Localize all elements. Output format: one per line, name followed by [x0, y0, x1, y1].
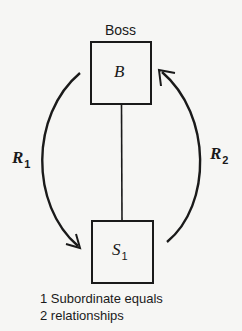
diagram-canvas: [0, 0, 242, 331]
relation-label-r2: R2: [210, 144, 228, 164]
boss-box-label: B: [114, 62, 124, 82]
caption-line-2: 2 relationships: [40, 307, 163, 324]
relation-subscript: 1: [24, 158, 30, 170]
caption: 1 Subordinate equals 2 relationships: [40, 290, 163, 324]
relation-arc-r2: [162, 72, 200, 242]
relation-letter: R: [210, 144, 221, 163]
boss-letter: B: [114, 62, 124, 81]
boss-title: Boss: [105, 22, 136, 38]
relation-label-r1: R1: [12, 148, 30, 168]
relation-arc-r1: [42, 73, 80, 246]
relation-letter: R: [12, 148, 23, 167]
subordinate-letter: S: [112, 240, 121, 259]
subordinate-box-label: S1: [112, 240, 128, 260]
caption-line-1: 1 Subordinate equals: [40, 290, 163, 307]
subordinate-subscript: 1: [122, 250, 128, 262]
reporting-line: [122, 104, 123, 221]
relation-subscript: 2: [222, 154, 228, 166]
